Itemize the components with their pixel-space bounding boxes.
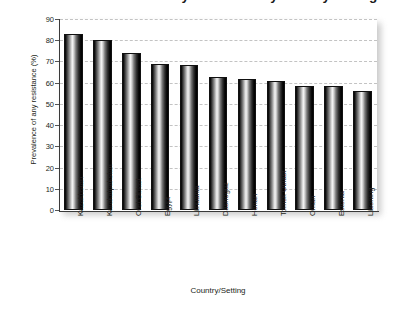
x-tick-label: Oman	[308, 196, 317, 216]
x-tick-label: Lithuania	[192, 186, 201, 216]
y-tick-label-60: 60	[32, 78, 54, 87]
x-tick-label: Orel Oblast	[134, 178, 143, 216]
bar-chart-figure: Prevalence of any resistance by country/…	[0, 0, 413, 318]
bar	[151, 64, 170, 210]
y-tick-label-80: 80	[32, 36, 54, 45]
x-tick-label: Dashoguz	[221, 182, 230, 216]
bar	[238, 79, 257, 210]
x-axis-title: Country/Setting	[59, 286, 377, 295]
x-tick-label: Liaoning	[366, 188, 375, 216]
x-tick-label: Tomsk Oblast	[279, 171, 288, 216]
y-tick-label-40: 40	[32, 121, 54, 130]
y-tick-label-30: 30	[32, 142, 54, 151]
x-tick-label: Karakalpakstan	[105, 164, 114, 216]
x-tick-label: Henan	[250, 194, 259, 216]
x-tick-label: Estonia	[337, 191, 346, 216]
y-tick-label-50: 50	[32, 99, 54, 108]
x-tick-label: Egypt	[163, 197, 172, 216]
y-tick-label-90: 90	[32, 15, 54, 24]
y-tick-label-0: 0	[32, 206, 54, 215]
y-axis-tick-labels: 0102030405060708090	[30, 0, 54, 318]
y-tick-label-70: 70	[32, 57, 54, 66]
bar-series	[59, 0, 377, 318]
bar	[295, 86, 314, 210]
x-tick-label: Kazakhstan	[76, 177, 85, 216]
y-tick-label-20: 20	[32, 163, 54, 172]
y-tick-label-10: 10	[32, 184, 54, 193]
